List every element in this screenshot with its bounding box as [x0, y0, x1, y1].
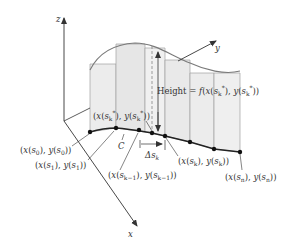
curve-c-label: C — [118, 141, 125, 151]
y-axis-back — [178, 41, 216, 61]
point-s-k-plus-1 — [188, 140, 192, 144]
y-axis-front — [64, 108, 90, 121]
point-s-k-plus-2 — [212, 147, 216, 151]
label-s1: (x(s1), y(s1)) — [35, 160, 86, 171]
point-s0 — [88, 130, 92, 134]
point-sk-star — [150, 131, 154, 135]
z-axis-label: z — [55, 14, 61, 24]
delta-s-label: Δsk — [144, 150, 160, 161]
height-label: Height = f(x(sk*), y(sk*)) — [157, 84, 259, 97]
point-sk-minus-1 — [137, 128, 141, 132]
panel-5 — [190, 73, 214, 149]
panel-6 — [214, 73, 240, 152]
y-axis-label: y — [214, 43, 220, 53]
label-sk-minus-1: (x(sk−1), y(sk−1)) — [108, 170, 177, 181]
panel-4 — [165, 60, 190, 142]
label-sn: (x(sn), y(sn)) — [225, 172, 276, 183]
point-sn — [238, 150, 242, 154]
label-sk: (x(sk), y(sk)) — [178, 156, 229, 167]
line-integral-diagram: z y x Height = f(x(sk*), y(sk*)) (x(sk*)… — [0, 0, 289, 241]
point-s1 — [114, 126, 118, 130]
x-axis-label: x — [128, 229, 133, 239]
label-s0: (x(s0), y(s0)) — [20, 145, 71, 156]
point-sk — [163, 134, 167, 138]
